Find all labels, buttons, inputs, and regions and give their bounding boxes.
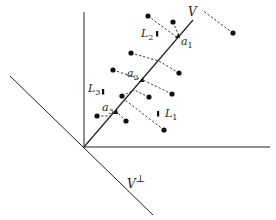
v-subspace-line <box>84 20 193 147</box>
subspace-projection-diagram: V V⊥ a1a2a3L1L2L3 <box>0 0 276 220</box>
axes <box>10 12 270 215</box>
data-point <box>145 13 150 18</box>
projection-line <box>202 10 233 33</box>
data-point <box>230 30 235 35</box>
line-L1-mark <box>157 111 159 117</box>
data-point <box>161 127 166 132</box>
v-perp-line <box>10 76 153 215</box>
line-L3-label: L3 <box>87 82 100 97</box>
v-perp-label: V⊥ <box>127 173 145 191</box>
data-point <box>110 67 115 72</box>
data-point <box>169 91 174 96</box>
line-L2-mark <box>156 31 158 37</box>
anchor-a1-label: a1 <box>181 35 193 50</box>
projection-line <box>131 53 159 61</box>
line-L3-mark <box>102 89 104 95</box>
data-point <box>123 118 128 123</box>
data-point <box>176 70 181 75</box>
v-label: V <box>188 5 198 19</box>
data-point <box>170 19 175 24</box>
data-point <box>119 93 124 98</box>
data-point <box>128 50 133 55</box>
projection-line <box>159 61 179 73</box>
projection-line <box>143 80 172 94</box>
anchor-a1-marker <box>175 33 180 38</box>
data-point <box>146 94 151 99</box>
data-point <box>94 113 99 118</box>
line-L2-label: L2 <box>140 27 153 42</box>
line-L1-label: L1 <box>164 107 177 122</box>
anchor-a3-label: a3 <box>102 101 114 116</box>
anchor-a2-label: a2 <box>127 67 139 82</box>
